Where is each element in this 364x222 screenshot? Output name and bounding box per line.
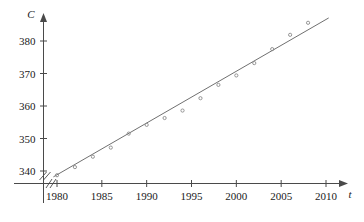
- x-axis-arrowhead: [339, 180, 348, 187]
- data-point: [109, 146, 112, 149]
- data-point: [235, 74, 238, 77]
- data-point: [306, 21, 309, 24]
- y-axis-break-mark: [40, 172, 51, 180]
- data-point: [145, 123, 148, 126]
- data-point: [199, 97, 202, 100]
- x-tick-label: 2000: [225, 190, 248, 202]
- x-tick-label: 2010: [315, 190, 338, 202]
- y-tick-label: 370: [19, 68, 36, 80]
- x-tick-label: 1985: [91, 190, 114, 202]
- data-point: [289, 33, 292, 36]
- data-point: [253, 62, 256, 65]
- x-tick-label: 1980: [46, 190, 69, 202]
- data-point: [217, 83, 220, 86]
- y-tick-label: 380: [19, 35, 36, 47]
- x-tick-label: 2005: [270, 190, 293, 202]
- y-tick-label: 360: [19, 100, 36, 112]
- co2-scatter-chart: 1980198519901995200020052010340350360370…: [0, 0, 364, 222]
- data-point: [163, 116, 166, 119]
- data-point: [181, 109, 184, 112]
- regression-line: [53, 18, 328, 177]
- data-point: [73, 166, 76, 169]
- x-axis-label: t: [348, 188, 352, 200]
- data-point: [91, 155, 94, 158]
- y-axis-label: C: [27, 8, 35, 20]
- x-tick-label: 1990: [136, 190, 159, 202]
- y-axis-arrowhead: [40, 13, 47, 22]
- y-tick-label: 340: [19, 165, 36, 177]
- y-tick-label: 350: [19, 133, 36, 145]
- chart-canvas: 1980198519901995200020052010340350360370…: [0, 0, 364, 222]
- x-tick-label: 1995: [181, 190, 204, 202]
